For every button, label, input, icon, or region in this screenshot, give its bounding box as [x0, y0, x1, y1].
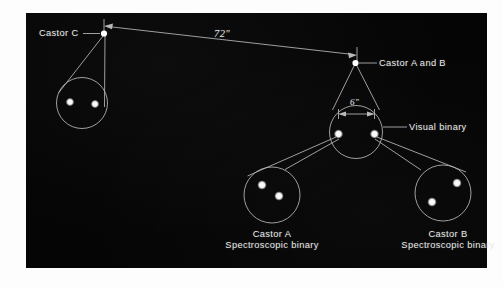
figure-canvas: Castor C Castor A and B Visual binary 72… [0, 0, 503, 287]
castor-c-label: Castor C [39, 28, 78, 38]
visual-binary-label: Visual binary [409, 122, 467, 132]
castor-a-binary-circle [244, 167, 300, 223]
separation-6-dimension [338, 109, 375, 119]
separation-6-label: 6" [350, 97, 359, 107]
castor-b-type: Spectroscopic binary [383, 240, 503, 250]
castor-c-star-2 [91, 100, 100, 109]
castor-a-caption: Castor A Spectroscopic binary [207, 229, 337, 250]
visual-binary-star-b [370, 129, 379, 138]
castor-b-caption: Castor B Spectroscopic binary [383, 229, 503, 250]
castor-b-binary-circle [415, 165, 471, 221]
castor-b-name: Castor B [429, 229, 468, 239]
visual-binary-star-a [334, 129, 343, 138]
castor-a-star-1 [257, 180, 267, 190]
separation-72-label: 72" [214, 28, 230, 39]
castor-c-star-marker [101, 30, 107, 36]
castor-b-star-1 [452, 178, 462, 188]
castor-ab-star-marker [352, 60, 358, 66]
castor-c-magnifier-cone [59, 36, 106, 107]
castor-a-star-2 [274, 191, 284, 201]
castor-ab-label: Castor A and B [379, 58, 446, 68]
castor-a-type: Spectroscopic binary [207, 240, 337, 250]
castor-a-magnifier-cone [248, 137, 340, 176]
separation-72-dimension [104, 19, 357, 62]
castor-c-binary-circle [57, 78, 108, 129]
castor-b-star-2 [427, 197, 437, 207]
castor-a-name: Castor A [253, 229, 291, 239]
castor-c-star-1 [66, 98, 75, 107]
